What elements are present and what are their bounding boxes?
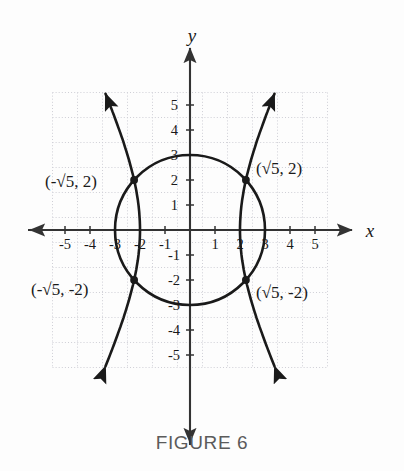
point-label-bottom-right: (√5, -2) — [256, 283, 308, 302]
y-tick-label: 1 — [171, 197, 178, 213]
intersection-point-bottom-right — [242, 276, 250, 284]
figure-caption: FIGURE 6 — [0, 432, 404, 454]
y-tick-label: 4 — [171, 122, 179, 138]
y-tick-label: 5 — [171, 97, 178, 113]
y-tick-label: -1 — [168, 247, 180, 263]
x-tick-label: 1 — [211, 236, 218, 252]
figure-container: x y -5 -4 -3 -2 -1 1 2 3 4 5 5 4 3 2 1 -… — [0, 0, 404, 471]
x-tick-labels: -5 -4 -3 -2 -1 1 2 3 4 5 — [59, 236, 319, 252]
x-tick-label: 5 — [311, 236, 318, 252]
point-label-top-left: (-√5, 2) — [45, 172, 97, 191]
point-label-top-right: (√5, 2) — [256, 159, 302, 178]
x-axis-label: x — [365, 220, 375, 241]
intersection-point-top-right — [242, 176, 250, 184]
y-tick-label: -5 — [168, 347, 180, 363]
point-label-bottom-left: (-√5, -2) — [31, 280, 88, 299]
y-axis-label: y — [186, 25, 197, 46]
x-tick-label: -5 — [59, 236, 71, 252]
intersection-point-top-left — [130, 176, 138, 184]
y-tick-label: -4 — [168, 322, 181, 338]
x-tick-label: -4 — [84, 236, 97, 252]
axis-lines — [28, 48, 352, 445]
graph-plot: x y -5 -4 -3 -2 -1 1 2 3 4 5 5 4 3 2 1 -… — [0, 0, 404, 471]
y-tick-label: 2 — [171, 172, 178, 188]
intersection-point-bottom-left — [130, 276, 138, 284]
x-tick-label: 4 — [286, 236, 294, 252]
y-tick-label: -2 — [168, 272, 180, 288]
